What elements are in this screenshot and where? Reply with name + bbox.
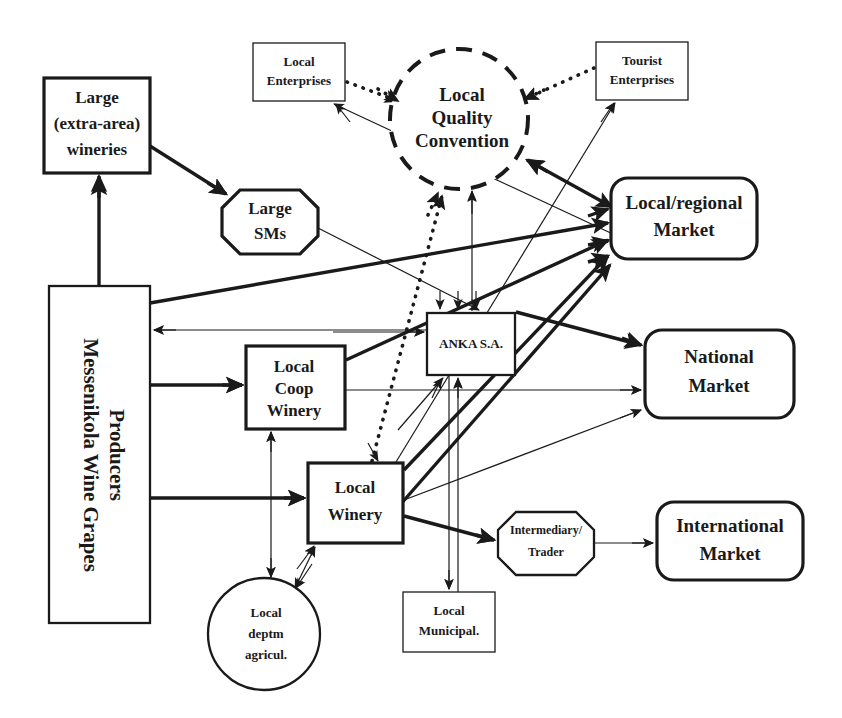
arrow-into-local-enterprises-bottom — [336, 104, 350, 122]
node-local-quality-convention[interactable]: Local Quality Convention — [390, 49, 528, 189]
node-deptm-agricul-label-1: Local — [250, 605, 281, 620]
node-messenikola-label-2: Producers — [105, 409, 129, 501]
arrow-into-tourist-enterprises-bottom — [601, 103, 614, 122]
node-large-wineries-label-1: Large — [75, 88, 119, 107]
node-anka-sa[interactable]: ANKA S.A. — [427, 313, 515, 375]
node-messenikola-label-1: Messenikola Wine Grapes — [79, 338, 103, 572]
node-large-sms-label-2: SMs — [254, 224, 287, 243]
node-tourist-enterprises-label-2: Enterprises — [610, 72, 674, 87]
node-large-wineries-label-2: (extra-area) — [54, 114, 141, 133]
node-local-regional-label-1: Local/regional — [626, 192, 743, 213]
arrow-into-lqc-bottom-left — [428, 193, 438, 215]
node-local-coop-winery[interactable]: Local Coop Winery — [246, 346, 345, 429]
node-local-enterprises-label-1: Local — [283, 54, 314, 69]
edge-messenikola-to-local-regional — [150, 223, 608, 303]
arrow-into-local-regional-left-a — [588, 209, 608, 216]
node-intermediary-label-2: Trader — [528, 545, 564, 559]
node-intermediary-trader[interactable]: Intermediary/ Trader — [498, 512, 594, 575]
node-lqc-label-1: Local — [439, 84, 484, 105]
arrow-into-national-market-left-c — [620, 410, 641, 418]
edge-local-enterprises-to-lqc — [347, 82, 398, 101]
node-local-regional-market[interactable]: Local/regional Market — [611, 178, 757, 259]
edge-anka-to-local-regional — [400, 265, 610, 505]
node-national-market[interactable]: National Market — [645, 330, 794, 418]
node-coop-winery-label-3: Winery — [267, 401, 322, 420]
edge-local-winery-to-national-market — [404, 410, 641, 500]
node-large-wineries[interactable]: Large (extra-area) wineries — [44, 78, 150, 173]
node-local-municipal[interactable]: Local Municipal. — [403, 592, 495, 652]
node-local-winery-label-1: Local — [335, 478, 376, 497]
node-international-market-label-1: International — [676, 515, 784, 536]
node-large-sms[interactable]: Large SMs — [222, 190, 318, 254]
node-large-sms-label-1: Large — [248, 199, 292, 218]
node-large-wineries-label-3: wineries — [67, 140, 128, 159]
node-tourist-enterprises[interactable]: Tourist Enterprises — [596, 42, 688, 100]
edge-anka-to-national-market — [516, 312, 641, 345]
node-deptm-agricul-label-3: agricul. — [245, 647, 287, 662]
arrow-into-lqc-right-thick — [528, 160, 548, 172]
node-local-enterprises-label-2: Enterprises — [267, 73, 331, 88]
node-lqc-label-3: Convention — [415, 130, 509, 151]
node-coop-winery-label-1: Local — [274, 357, 315, 376]
diagram-canvas: Large (extra-area) wineries Local Enterp… — [0, 0, 842, 718]
node-local-municipal-label-2: Municipal. — [419, 623, 479, 638]
node-local-deptm-agricul[interactable]: Local deptm agricul. — [208, 578, 320, 690]
node-intermediary-label-1: Intermediary/ — [510, 523, 583, 537]
arrow-into-intermediary-left — [476, 535, 494, 540]
node-local-municipal-label-1: Local — [433, 603, 464, 618]
node-local-winery-label-2: Winery — [328, 505, 383, 524]
arrow-into-local-regional-left-b — [588, 241, 608, 245]
node-local-enterprises[interactable]: Local Enterprises — [253, 43, 345, 101]
network-diagram: Large (extra-area) wineries Local Enterp… — [0, 0, 842, 718]
node-local-winery[interactable]: Local Winery — [308, 463, 403, 543]
node-international-market[interactable]: International Market — [657, 502, 803, 580]
node-lqc-label-2: Quality — [431, 107, 493, 128]
node-coop-winery-label-2: Coop — [275, 379, 314, 398]
node-tourist-enterprises-label-1: Tourist — [622, 53, 663, 68]
node-local-regional-label-2: Market — [653, 219, 715, 240]
arrow-into-large-sms-upperleft — [208, 183, 226, 194]
node-messenikola-producers[interactable]: Messenikola Wine Grapes Producers — [49, 286, 150, 623]
node-anka-label: ANKA S.A. — [439, 336, 503, 351]
node-international-market-label-2: Market — [699, 543, 761, 564]
node-national-market-label-2: Market — [688, 375, 750, 396]
node-national-market-label-1: National — [684, 346, 754, 367]
node-deptm-agricul-label-2: deptm — [248, 626, 284, 641]
